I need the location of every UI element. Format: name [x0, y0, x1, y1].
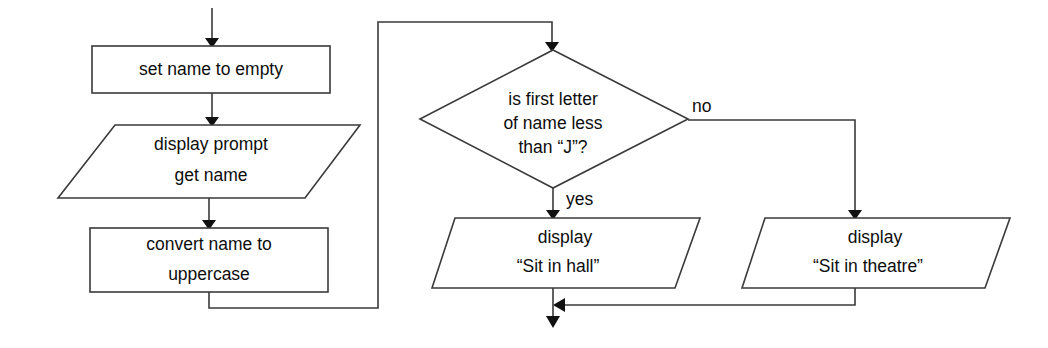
node-display-prompt-line2: get name — [175, 165, 248, 185]
connector-setname-to-prompt — [205, 93, 219, 127]
node-display-prompt-line1: display prompt — [154, 134, 268, 154]
node-convert-name-to-uppercase: convert name to uppercase — [90, 228, 328, 292]
connector-hall-to-exit — [546, 288, 560, 328]
node-display-theatre-line1: display — [848, 227, 903, 247]
node-set-name-to-empty-label: set name to empty — [139, 59, 283, 79]
connector-no-to-theatre — [688, 120, 862, 220]
node-display-sit-in-hall: display “Sit in hall” — [432, 218, 700, 288]
edge-label-yes: yes — [566, 189, 593, 209]
connector-entry — [205, 8, 219, 48]
node-decision-line3: than “J”? — [518, 137, 587, 157]
node-display-hall-line2: “Sit in hall” — [517, 256, 600, 276]
node-convert-uppercase-line2: uppercase — [168, 264, 250, 284]
node-display-sit-in-theatre: display “Sit in theatre” — [742, 218, 1010, 288]
flowchart-canvas: set name to empty display prompt get nam… — [0, 0, 1048, 348]
connector-prompt-to-convert — [202, 198, 216, 230]
node-decision-line1: is first letter — [508, 89, 598, 109]
node-convert-uppercase-line1: convert name to — [146, 234, 271, 254]
node-first-letter-decision: is first letter of name less than “J”? — [420, 50, 688, 188]
node-set-name-to-empty: set name to empty — [92, 46, 330, 93]
node-decision-line2: of name less — [503, 113, 602, 133]
connector-yes-to-hall — [546, 188, 560, 220]
edge-label-no: no — [692, 96, 711, 116]
node-display-prompt-get-name: display prompt get name — [58, 125, 360, 198]
connector-theatre-to-merge — [553, 288, 855, 312]
node-display-hall-line1: display — [538, 227, 593, 247]
flowchart-diagram: set name to empty display prompt get nam… — [0, 0, 1048, 348]
node-display-theatre-line2: “Sit in theatre” — [813, 256, 923, 276]
